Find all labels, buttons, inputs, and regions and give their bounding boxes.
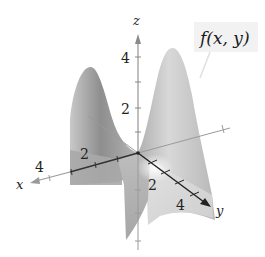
z-tick-2: 2 — [121, 101, 130, 117]
surface — [70, 48, 215, 240]
surface-plot: f(x, y) z 4 2 — [0, 0, 265, 257]
origin-point — [136, 151, 140, 155]
z-axis-arrow-icon — [135, 34, 141, 44]
z-axis-label: z — [132, 13, 140, 28]
function-label-text: f(x, y) — [198, 28, 250, 48]
x-tick-4: 4 — [35, 159, 44, 175]
x-tick-2: 2 — [80, 146, 89, 162]
z-tick-4: 4 — [121, 50, 130, 66]
z-axis: z 4 2 — [121, 13, 141, 153]
x-axis-arrow-icon — [30, 177, 40, 184]
function-label: f(x, y) — [194, 22, 258, 78]
y-axis-label: y — [215, 203, 224, 218]
y-tick-2: 2 — [148, 177, 157, 193]
function-label-leader — [200, 52, 210, 78]
y-tick-4: 4 — [176, 197, 185, 213]
x-axis-label: x — [16, 177, 24, 192]
y-axis-back-tick — [222, 125, 224, 133]
